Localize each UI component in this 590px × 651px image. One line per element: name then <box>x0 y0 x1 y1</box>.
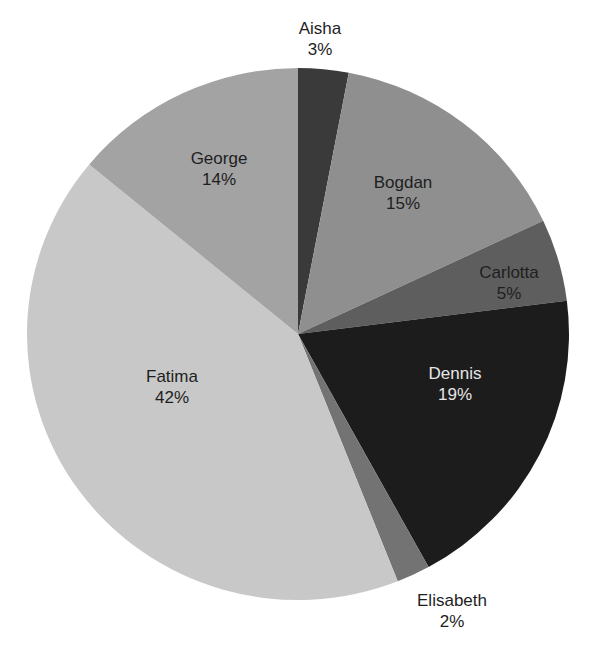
label-bogdan-pct: 15% <box>374 193 433 214</box>
label-aisha: Aisha 3% <box>299 18 342 60</box>
label-george-name: George <box>191 148 248 169</box>
label-fatima: Fatima 42% <box>146 366 198 408</box>
label-dennis: Dennis 19% <box>429 363 482 405</box>
label-aisha-name: Aisha <box>299 18 342 39</box>
label-carlotta-name: Carlotta <box>479 262 539 283</box>
pie-chart <box>0 0 590 651</box>
label-elisabeth: Elisabeth 2% <box>417 590 487 632</box>
label-aisha-pct: 3% <box>299 39 342 60</box>
label-bogdan-name: Bogdan <box>374 172 433 193</box>
label-dennis-name: Dennis <box>429 363 482 384</box>
label-elisabeth-name: Elisabeth <box>417 590 487 611</box>
label-carlotta: Carlotta 5% <box>479 262 539 304</box>
label-fatima-pct: 42% <box>146 387 198 408</box>
label-elisabeth-pct: 2% <box>417 611 487 632</box>
label-dennis-pct: 19% <box>429 384 482 405</box>
label-bogdan: Bogdan 15% <box>374 172 433 214</box>
label-fatima-name: Fatima <box>146 366 198 387</box>
label-carlotta-pct: 5% <box>479 283 539 304</box>
label-george: George 14% <box>191 148 248 190</box>
label-george-pct: 14% <box>191 169 248 190</box>
